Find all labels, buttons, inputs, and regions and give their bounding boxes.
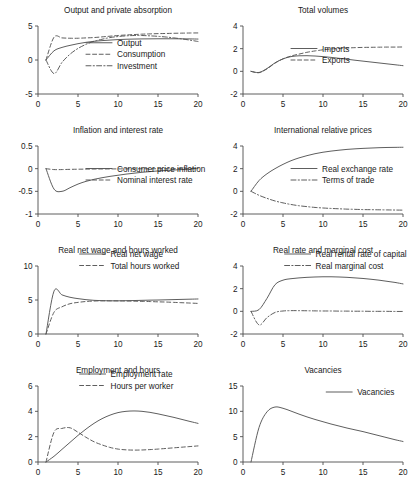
y-tick-label: 0 bbox=[28, 165, 33, 174]
legend-label-2: Exports bbox=[322, 56, 350, 65]
x-tick-label: 0 bbox=[36, 220, 41, 229]
x-tick-label: 20 bbox=[398, 220, 408, 229]
x-tick-label: 15 bbox=[153, 340, 163, 349]
y-tick-label: 10 bbox=[228, 407, 238, 416]
x-tick-label: 10 bbox=[113, 220, 123, 229]
x-tick-label: 20 bbox=[193, 340, 203, 349]
legend-label-2: Terms of trade bbox=[322, 176, 375, 185]
x-tick-label: 0 bbox=[36, 340, 41, 349]
legend-label-1: Real exchange rate bbox=[322, 165, 393, 174]
legend-label-2: Consumption bbox=[117, 50, 166, 59]
legend-label-2: Nominal interest rate bbox=[117, 176, 193, 185]
y-tick-label: 10 bbox=[23, 262, 33, 271]
x-tick-label: 0 bbox=[36, 100, 41, 109]
x-tick-label: 15 bbox=[358, 468, 368, 477]
x-tick-label: 15 bbox=[358, 100, 368, 109]
y-tick-label: 0 bbox=[233, 67, 238, 76]
chart-panel-4: International relative prices-2024051015… bbox=[213, 122, 409, 240]
y-tick-label: 2 bbox=[233, 45, 238, 54]
y-tick-label: -2 bbox=[230, 90, 238, 99]
series-line-1 bbox=[251, 407, 403, 462]
x-tick-label: 10 bbox=[318, 220, 328, 229]
x-tick-label: 20 bbox=[398, 100, 408, 109]
x-tick-label: 15 bbox=[153, 468, 163, 477]
x-tick-label: 5 bbox=[281, 340, 286, 349]
y-tick-label: -2 bbox=[230, 210, 238, 219]
y-tick-label: 5 bbox=[233, 433, 238, 442]
x-tick-label: 0 bbox=[36, 468, 41, 477]
y-tick-label: 15 bbox=[228, 382, 238, 391]
series-line-2 bbox=[46, 428, 198, 462]
panel-title: Inflation and interest rate bbox=[73, 126, 164, 135]
x-tick-label: 20 bbox=[193, 220, 203, 229]
legend-label-1: Vacancies bbox=[357, 388, 394, 397]
panel-title: International relative prices bbox=[274, 126, 372, 135]
series-line-2 bbox=[251, 191, 403, 210]
x-tick-label: 15 bbox=[358, 220, 368, 229]
y-tick-label: 0 bbox=[233, 458, 238, 467]
x-tick-label: 10 bbox=[113, 100, 123, 109]
x-tick-label: 5 bbox=[281, 100, 286, 109]
x-tick-label: 20 bbox=[193, 100, 203, 109]
x-tick-label: 5 bbox=[76, 220, 81, 229]
x-tick-label: 0 bbox=[241, 100, 246, 109]
legend-label-1: Output bbox=[117, 39, 142, 48]
x-tick-label: 0 bbox=[241, 340, 246, 349]
x-tick-label: 15 bbox=[153, 220, 163, 229]
panel-title: Output and private absorption bbox=[64, 6, 172, 15]
series-line-1 bbox=[251, 277, 403, 312]
legend-label-1: Consumer price inflation bbox=[117, 165, 206, 174]
y-tick-label: 0 bbox=[28, 458, 33, 467]
y-tick-label: 0 bbox=[28, 56, 33, 65]
x-tick-label: 15 bbox=[153, 100, 163, 109]
x-tick-label: 5 bbox=[76, 468, 81, 477]
x-tick-label: 0 bbox=[241, 468, 246, 477]
series-line-2 bbox=[251, 311, 403, 325]
y-tick-label: -5 bbox=[25, 90, 33, 99]
series-line-2 bbox=[46, 301, 198, 334]
y-tick-label: -1 bbox=[25, 210, 33, 219]
chart-panel-2: Total volumes-202405101520ImportsExports bbox=[213, 2, 409, 120]
legend-label-1: Real net wage bbox=[111, 250, 164, 259]
x-tick-label: 10 bbox=[113, 340, 123, 349]
y-tick-label: 0 bbox=[233, 187, 238, 196]
figure-panel-grid: Output and private absorption-5050510152… bbox=[0, 0, 415, 491]
series-line-1 bbox=[46, 289, 198, 334]
legend-label-1: Imports bbox=[322, 45, 349, 54]
legend-label-2: Hours per worker bbox=[111, 382, 174, 391]
x-tick-label: 20 bbox=[398, 340, 408, 349]
y-tick-label: 0 bbox=[233, 307, 238, 316]
y-tick-label: 4 bbox=[28, 407, 33, 416]
y-tick-label: -0.5 bbox=[18, 187, 33, 196]
y-tick-label: 0.5 bbox=[21, 142, 33, 151]
x-tick-label: 5 bbox=[281, 468, 286, 477]
x-tick-label: 15 bbox=[358, 340, 368, 349]
legend-label-3: Investment bbox=[117, 62, 158, 71]
chart-panel-1: Output and private absorption-5050510152… bbox=[8, 2, 204, 120]
y-tick-label: 2 bbox=[233, 165, 238, 174]
legend-label-2: Total hours worked bbox=[111, 262, 180, 271]
chart-panel-8: Vacancies05101505101520Vacancies bbox=[213, 362, 409, 488]
legend-label-2: Real marginal cost bbox=[316, 262, 385, 271]
panel-title: Vacancies bbox=[304, 366, 341, 375]
y-tick-label: 6 bbox=[28, 382, 33, 391]
x-tick-label: 10 bbox=[113, 468, 123, 477]
chart-panel-7: Employment and hours024605101520Employme… bbox=[8, 362, 204, 488]
x-tick-label: 0 bbox=[241, 220, 246, 229]
x-tick-label: 10 bbox=[318, 468, 328, 477]
chart-panel-3: Inflation and interest rate-1-0.500.5051… bbox=[8, 122, 204, 240]
series-line-1 bbox=[46, 411, 198, 462]
y-tick-label: 4 bbox=[233, 142, 238, 151]
y-tick-label: 0 bbox=[28, 330, 33, 339]
chart-panel-6: Real rate and marginal cost-202405101520… bbox=[213, 242, 409, 360]
panel-title: Total volumes bbox=[298, 6, 348, 15]
x-tick-label: 20 bbox=[193, 468, 203, 477]
y-tick-label: 2 bbox=[28, 433, 33, 442]
y-tick-label: 5 bbox=[28, 296, 33, 305]
chart-panel-5: Real net wage and hours worked0510051015… bbox=[8, 242, 204, 360]
x-tick-label: 5 bbox=[76, 100, 81, 109]
x-tick-label: 20 bbox=[398, 468, 408, 477]
legend-label-1: Employment rate bbox=[111, 370, 173, 379]
y-tick-label: 2 bbox=[233, 285, 238, 294]
y-tick-label: 5 bbox=[28, 22, 33, 31]
